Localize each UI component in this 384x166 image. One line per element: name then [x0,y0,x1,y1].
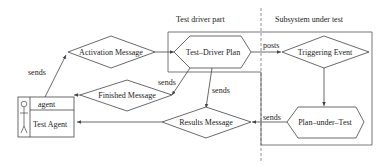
node-test-driver-plan[interactable]: Test–Driver Plan [174,36,251,68]
node-activation-label: Activation Message [79,48,143,57]
node-put-label: Plan–under–Test [298,118,352,127]
node-test-agent[interactable]: agent Test Agent [18,97,74,137]
region-label-subsystem: Subsystem under test [275,15,344,24]
node-activation-message[interactable]: Activation Message [68,36,155,68]
agent-name: Test Agent [33,120,68,129]
node-triggering-label: Triggering Event [298,48,353,57]
edge-label-sends-3: sends [212,86,230,95]
edge-label-sends-1: sends [28,68,46,77]
diagram-canvas: Test driver part Subsystem under test se… [0,0,384,166]
node-results-message[interactable]: Results Message [162,107,251,138]
node-plan-under-test[interactable]: Plan–under–Test [287,107,364,138]
edge-label-sends-2: sends [158,78,176,87]
node-results-label: Results Message [179,118,233,127]
agent-stereotype: agent [38,100,56,109]
edge-label-sends-4: sends [263,113,281,122]
edge-agent-to-activation [45,55,66,97]
node-triggering-event[interactable]: Triggering Event [282,36,369,68]
edge-label-posts: posts [263,41,279,50]
node-driver-plan-label: Test–Driver Plan [186,48,240,57]
region-label-test-driver: Test driver part [176,15,226,24]
node-finished-label: Finished Message [98,91,156,100]
